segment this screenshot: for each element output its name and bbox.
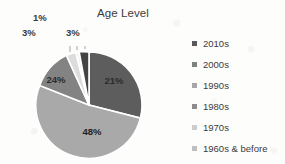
pie-chart-screenshot: Age Level 21% 48% 24%: [0, 0, 285, 164]
legend-swatch-1980s: [192, 104, 197, 109]
legend-item-1980s[interactable]: 1980s: [192, 96, 285, 117]
legend-label-2010s: 2010s: [203, 38, 229, 49]
legend-swatch-2010s: [192, 41, 197, 46]
legend-label-2000s: 2000s: [203, 59, 229, 70]
pie-label-2000s: 48%: [82, 126, 102, 137]
pie-callout-label-1980s: 3%: [22, 27, 36, 38]
leader-line-1970s: [64, 46, 77, 50]
pie-callout-label-1960s-and-before: 3%: [66, 27, 80, 38]
legend-swatch-2000s: [192, 62, 197, 67]
legend-item-2010s[interactable]: 2010s: [192, 33, 285, 54]
chart-legend: 2010s 2000s 1990s 1980s 1970s 1960s & be…: [192, 33, 285, 159]
leader-line-1980s: [49, 46, 70, 52]
legend-swatch-1960s-and-before: [192, 146, 197, 151]
pie-plot-area: 21% 48% 24%: [28, 46, 152, 160]
legend-item-2000s[interactable]: 2000s: [192, 54, 285, 75]
legend-label-1970s: 1970s: [203, 122, 229, 133]
leader-line-1960s-and-before: [84, 46, 85, 49]
pie-callout-label-1970s: 1%: [33, 12, 47, 23]
pie-svg: 21% 48% 24%: [28, 46, 152, 160]
legend-swatch-1970s: [192, 125, 197, 130]
pie-label-2010s: 21%: [104, 75, 124, 86]
chart-title: Age Level: [78, 7, 168, 19]
legend-item-1970s[interactable]: 1970s: [192, 117, 285, 138]
legend-item-1960s-and-before[interactable]: 1960s & before: [192, 138, 285, 159]
legend-label-1980s: 1980s: [203, 101, 229, 112]
legend-label-1990s: 1990s: [203, 80, 229, 91]
legend-label-1960s-and-before: 1960s & before: [203, 143, 267, 154]
legend-item-1990s[interactable]: 1990s: [192, 75, 285, 96]
pie-label-1990s: 24%: [46, 74, 66, 85]
legend-swatch-1990s: [192, 83, 197, 88]
